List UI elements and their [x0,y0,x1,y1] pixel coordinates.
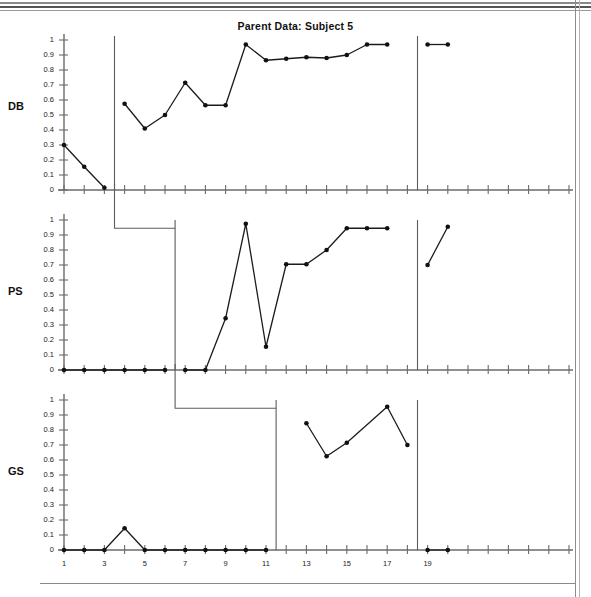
data-point-marker[interactable] [385,404,390,409]
x-axis-tick-label: 7 [176,560,194,568]
data-point-marker[interactable] [244,221,249,226]
y-axis-tick-label: 0.4 [28,306,54,314]
data-point-marker[interactable] [102,185,107,190]
x-axis-tick-label: 17 [378,560,396,568]
data-point-marker[interactable] [264,344,269,349]
y-axis-tick-label: 0.1 [28,351,54,359]
data-series-line-baseline [64,145,104,188]
x-axis-tick-label: 11 [257,560,275,568]
y-axis-tick-label: 0.4 [28,486,54,494]
page-edge-line-right-1 [575,0,576,597]
y-axis-tick-label: 0.4 [28,126,54,134]
data-point-marker[interactable] [284,56,289,61]
data-point-marker[interactable] [102,548,107,553]
data-point-marker[interactable] [203,103,208,108]
y-axis-tick-label: 0 [28,366,54,374]
data-point-marker[interactable] [425,42,430,47]
data-point-marker[interactable] [122,526,127,531]
data-point-marker[interactable] [82,368,87,373]
data-point-marker[interactable] [446,548,451,553]
data-point-marker[interactable] [324,56,329,61]
data-point-marker[interactable] [223,316,228,321]
y-axis-tick-label: 0.3 [28,321,54,329]
data-point-marker[interactable] [122,368,127,373]
data-point-marker[interactable] [365,226,370,231]
panel-graphics-gs [0,0,591,597]
data-point-marker[interactable] [446,224,451,229]
y-axis-tick-label: 1 [28,396,54,404]
data-point-marker[interactable] [264,58,269,63]
data-point-marker[interactable] [385,226,390,231]
y-axis-tick-label: 0.3 [28,501,54,509]
chart-title: Parent Data: Subject 5 [0,20,591,32]
y-axis-tick-label: 0.6 [28,96,54,104]
data-point-marker[interactable] [446,42,451,47]
data-point-marker[interactable] [345,226,350,231]
data-point-marker[interactable] [405,443,410,448]
y-axis-tick-label: 0.7 [28,261,54,269]
data-point-marker[interactable] [143,548,148,553]
y-axis-tick-label: 0.5 [28,471,54,479]
data-point-marker[interactable] [345,53,350,58]
x-axis-tick-label: 13 [297,560,315,568]
data-point-marker[interactable] [143,126,148,131]
page-edge-line-bottom [40,583,576,584]
data-point-marker[interactable] [62,548,67,553]
x-axis-tick-label: 5 [136,560,154,568]
y-axis-tick-label: 0.2 [28,516,54,524]
data-point-marker[interactable] [304,55,309,60]
data-point-marker[interactable] [122,101,127,106]
y-axis-tick-label: 0.7 [28,81,54,89]
y-axis-tick-label: 0.9 [28,231,54,239]
data-point-marker[interactable] [82,548,87,553]
chart-page: Parent Data: Subject 5 DB00.10.20.30.40.… [0,0,591,597]
y-axis-tick-label: 0.8 [28,246,54,254]
data-point-marker[interactable] [365,42,370,47]
data-point-marker[interactable] [62,143,67,148]
page-edge-line-top-2 [0,6,591,8]
y-axis-tick-label: 0.3 [28,141,54,149]
y-axis-tick-label: 0.6 [28,276,54,284]
data-point-marker[interactable] [425,548,430,553]
data-point-marker[interactable] [284,262,289,267]
data-point-marker[interactable] [223,103,228,108]
data-point-marker[interactable] [203,368,208,373]
data-point-marker[interactable] [324,454,329,459]
data-point-marker[interactable] [223,548,228,553]
data-point-marker[interactable] [183,368,188,373]
y-axis-tick-label: 0.8 [28,66,54,74]
x-axis-tick-label: 1 [55,560,73,568]
data-point-marker[interactable] [244,548,249,553]
data-point-marker[interactable] [163,368,168,373]
y-axis-tick-label: 1 [28,216,54,224]
data-point-marker[interactable] [304,262,309,267]
data-point-marker[interactable] [82,164,87,169]
data-point-marker[interactable] [183,548,188,553]
data-series-line-baseline [64,528,266,550]
data-point-marker[interactable] [163,548,168,553]
page-edge-line-right-2 [579,0,580,597]
y-axis-tick-label: 0 [28,546,54,554]
data-point-marker[interactable] [324,248,329,253]
data-point-marker[interactable] [385,42,390,47]
data-point-marker[interactable] [264,548,269,553]
page-edge-line-top-1 [0,2,591,4]
phase-line-connector [175,364,276,408]
data-point-marker[interactable] [102,368,107,373]
data-point-marker[interactable] [244,42,249,47]
data-point-marker[interactable] [143,368,148,373]
data-series-line-intervention [185,224,387,370]
data-point-marker[interactable] [163,113,168,118]
y-axis-tick-label: 0.2 [28,156,54,164]
y-axis-tick-label: 0.1 [28,531,54,539]
data-point-marker[interactable] [62,368,67,373]
y-axis-tick-label: 0.8 [28,426,54,434]
data-point-marker[interactable] [203,548,208,553]
data-series-line-intervention [306,407,407,457]
page-edge-line-top-3 [0,10,591,11]
data-point-marker[interactable] [183,80,188,85]
y-axis-tick-label: 0.2 [28,336,54,344]
data-point-marker[interactable] [304,421,309,426]
data-point-marker[interactable] [345,440,350,445]
data-point-marker[interactable] [425,263,430,268]
